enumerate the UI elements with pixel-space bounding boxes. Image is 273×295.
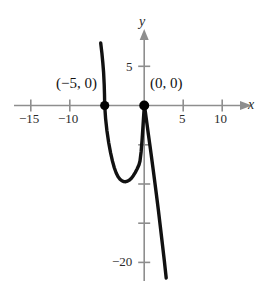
- x-axis-label: x: [248, 98, 254, 112]
- cubic-function-plot: [0, 0, 273, 295]
- x-tick-label--15: −15: [19, 112, 39, 125]
- y-tick-label--20: −20: [112, 255, 132, 268]
- graph-figure: −15 −10 5 10 5 −20 x y (−5, 0) (0, 0): [0, 0, 273, 295]
- x-axis: [14, 100, 252, 112]
- y-axis-label: y: [139, 15, 145, 29]
- annotation-origin: (0, 0): [150, 76, 183, 91]
- point-marker-origin: [139, 101, 149, 111]
- x-tick-label-5: 5: [179, 112, 186, 125]
- x-tick-label--10: −10: [58, 112, 78, 125]
- x-tick-label-10: 10: [214, 112, 227, 125]
- y-tick-label-5: 5: [126, 60, 133, 73]
- annotation-root-left: (−5, 0): [56, 76, 97, 91]
- y-axis-arrow: [140, 29, 149, 40]
- point-marker-root-left: [100, 101, 109, 110]
